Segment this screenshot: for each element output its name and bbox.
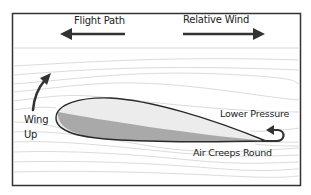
wing-up-label-line1: Wing [24, 114, 48, 125]
relative-wind-label: Relative Wind [183, 14, 249, 25]
lower-pressure-label: Lower Pressure [220, 108, 289, 119]
air-creeps-round-label: Air Creeps Round [193, 147, 272, 158]
diagram-canvas [0, 0, 311, 195]
diagram-frame [13, 14, 301, 186]
flight-path-label: Flight Path [74, 15, 125, 26]
wing-up-label-line2: Up [24, 129, 37, 140]
airfoil-diagram: Flight Path Relative Wind Wing Up Lower … [0, 0, 311, 195]
